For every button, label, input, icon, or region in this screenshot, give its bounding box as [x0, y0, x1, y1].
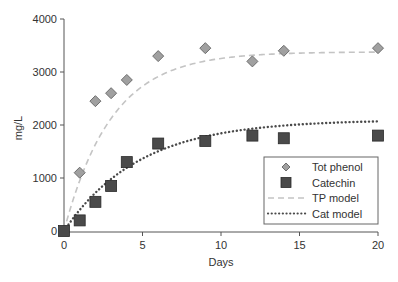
tot-phenol-point [247, 56, 258, 67]
tot-phenol-point [153, 51, 164, 62]
x-axis-label: Days [208, 256, 234, 268]
y-tick-label: 1000 [33, 172, 57, 184]
chart-svg: 0100020003000400005101520 Tot phenolCate… [0, 0, 398, 282]
x-tick-label: 15 [293, 239, 305, 251]
catechin-point [106, 180, 117, 191]
x-tick-label: 20 [372, 239, 384, 251]
y-axis-label: mg/L [12, 116, 24, 140]
catechin-point [373, 130, 384, 141]
legend: Tot phenolCatechinTP modelCat model [264, 157, 378, 224]
y-tick-label: 0 [51, 225, 57, 237]
x-tick-label: 10 [215, 239, 227, 251]
tot-phenol-point [106, 88, 117, 99]
x-tick-label: 0 [61, 239, 67, 251]
square-marker-icon [281, 178, 291, 188]
x-tick-label: 5 [139, 239, 145, 251]
catechin-point [200, 135, 211, 146]
tot-phenol-point [121, 74, 132, 85]
tot-phenol-point [200, 43, 211, 54]
legend-label: Tot phenol [312, 161, 363, 173]
catechin-point [153, 138, 164, 149]
legend-label: TP model [312, 192, 359, 204]
y-tick-label: 4000 [33, 13, 57, 25]
y-tick-label: 2000 [33, 119, 57, 131]
catechin-point [74, 215, 85, 226]
chart-container: 0100020003000400005101520 Tot phenolCate… [0, 0, 398, 282]
legend-label: Cat model [312, 208, 362, 220]
catechin-point [90, 196, 101, 207]
y-tick-label: 3000 [33, 66, 57, 78]
catechin-point [278, 133, 289, 144]
catechin-point [59, 226, 70, 237]
legend-label: Catechin [312, 177, 355, 189]
tot-phenol-point [278, 45, 289, 56]
tot-phenol-point [90, 96, 101, 107]
catechin-point [121, 157, 132, 168]
catechin-point [247, 130, 258, 141]
